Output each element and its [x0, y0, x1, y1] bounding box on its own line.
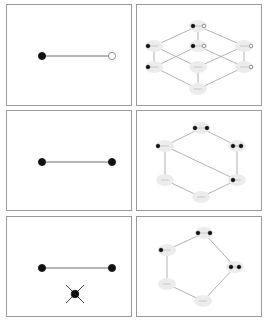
filled-node-icon: [231, 178, 235, 182]
filled-node-icon: [208, 231, 212, 235]
graph-canvas: [7, 111, 133, 212]
lattice-edge: [165, 146, 237, 180]
filled-node-icon: [191, 24, 195, 28]
panel-row2-right: [136, 110, 262, 211]
lattice-canvas: [137, 111, 263, 212]
filled-node-icon: [71, 290, 79, 298]
panel-row1-right: [136, 4, 262, 106]
open-node-icon: [202, 24, 206, 28]
open-node-icon: [108, 52, 115, 59]
graph-canvas: [7, 5, 133, 107]
filled-node-icon: [146, 65, 150, 69]
filled-node-icon: [191, 44, 195, 48]
filled-node-icon: [193, 126, 197, 130]
filled-node-icon: [108, 264, 115, 271]
panel-row2-left: [6, 110, 132, 211]
lattice-edge: [203, 267, 235, 301]
filled-node-icon: [196, 231, 200, 235]
lattice-canvas: [137, 217, 263, 318]
filled-node-icon: [237, 265, 241, 269]
filled-node-icon: [239, 144, 243, 148]
panel-row3-left: [6, 216, 132, 317]
open-node-icon: [249, 44, 253, 48]
panel-row3-right: [136, 216, 262, 317]
lattice-canvas: [137, 5, 263, 107]
filled-node-icon: [156, 144, 160, 148]
filled-node-icon: [229, 265, 233, 269]
filled-node-icon: [108, 158, 115, 165]
filled-node-icon: [38, 264, 45, 271]
panel-row1-left: [6, 4, 132, 106]
graph-canvas: [7, 217, 133, 318]
open-node-icon: [202, 44, 206, 48]
filled-node-icon: [38, 158, 45, 165]
filled-node-icon: [146, 44, 150, 48]
filled-node-icon: [205, 126, 209, 130]
filled-node-icon: [38, 52, 45, 59]
filled-node-icon: [159, 248, 163, 252]
filled-node-icon: [231, 144, 235, 148]
open-node-icon: [249, 65, 253, 69]
